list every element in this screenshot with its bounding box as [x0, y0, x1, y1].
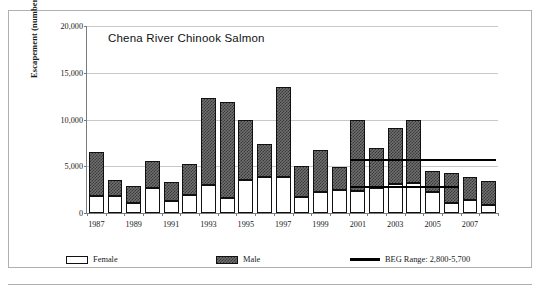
x-tick-mark [180, 213, 181, 216]
bar-segment-female [182, 195, 197, 213]
bar-segment-female [481, 205, 496, 213]
bar-segment-female [463, 200, 478, 213]
bar-segment-male [126, 186, 141, 203]
gridline [87, 73, 498, 74]
bar-segment-female [164, 201, 179, 213]
bar-segment-male [481, 181, 496, 204]
bar-1995 [238, 120, 253, 213]
x-tick-label-1997: 1997 [275, 220, 291, 229]
bar-segment-male [332, 167, 347, 189]
x-tick-mark [349, 213, 350, 216]
bar-segment-male [406, 120, 421, 184]
bar-segment-male [89, 152, 104, 196]
x-tick-mark [124, 213, 125, 216]
x-tick-label-1991: 1991 [163, 220, 179, 229]
x-tick-mark [498, 213, 499, 216]
male-pattern-swatch [216, 256, 238, 264]
bar-2008 [481, 181, 496, 213]
bar-segment-female [332, 190, 347, 213]
x-tick-mark [106, 213, 107, 216]
bar-segment-female [369, 188, 384, 213]
x-tick-label-1987: 1987 [88, 220, 104, 229]
legend-item-beg-range: BEG Range: 2,800-5,700 [350, 255, 470, 264]
bar-1990 [145, 161, 160, 213]
beg-upper-line [350, 159, 496, 161]
y-tick-label: 10,000 [60, 115, 83, 124]
bar-segment-female [444, 203, 459, 213]
bar-1991 [164, 182, 179, 213]
bar-segment-female [145, 188, 160, 213]
x-tick-mark [236, 213, 237, 216]
bar-2002 [369, 148, 384, 213]
x-tick-label-2003: 2003 [387, 220, 403, 229]
bar-segment-male [182, 164, 197, 195]
beg-line-swatch [350, 258, 380, 261]
bar-segment-male [313, 150, 328, 191]
x-tick-label-1993: 1993 [200, 220, 216, 229]
x-tick-mark [461, 213, 462, 216]
female-pattern-swatch [66, 256, 88, 264]
x-tick-mark [479, 213, 480, 216]
bar-segment-male [145, 161, 160, 188]
legend-label-beg-range: BEG Range: 2,800-5,700 [385, 255, 470, 264]
gridline [87, 120, 498, 121]
legend-item-male: Male [216, 255, 260, 264]
x-tick-mark [274, 213, 275, 216]
bar-2003 [388, 128, 403, 213]
bar-segment-male [238, 120, 253, 180]
bar-segment-female [201, 185, 216, 213]
bar-1997 [276, 87, 291, 213]
x-tick-label-1999: 1999 [312, 220, 328, 229]
bar-segment-female [257, 177, 272, 213]
caption-divider-rule [8, 284, 532, 285]
bar-segment-male [164, 182, 179, 201]
bar-segment-male [463, 177, 478, 200]
bar-1998 [294, 166, 309, 213]
bar-segment-female [294, 197, 309, 213]
legend-label-female: Female [93, 255, 118, 264]
x-tick-mark [442, 213, 443, 216]
gridline [87, 26, 498, 27]
x-tick-mark [87, 213, 88, 216]
y-axis-title: Escapement (number of fish [29, 0, 39, 78]
bar-segment-male [276, 87, 291, 178]
bar-segment-female [388, 184, 403, 213]
bar-2001 [350, 120, 365, 214]
bar-1992 [182, 164, 197, 213]
bar-segment-female [126, 203, 141, 213]
bar-segment-male [425, 171, 440, 192]
y-tick-label: 0 [79, 209, 83, 218]
chart-legend: Female Male BEG Range: 2,800-5,700 [20, 255, 520, 271]
bar-segment-female [350, 191, 365, 213]
legend-item-female: Female [66, 255, 118, 264]
x-tick-label-2007: 2007 [462, 220, 478, 229]
beg-lower-line [350, 186, 458, 188]
y-tick-mark [84, 73, 87, 74]
x-tick-label-2001: 2001 [350, 220, 366, 229]
bar-1988 [108, 180, 123, 213]
x-tick-mark [218, 213, 219, 216]
bar-segment-female [238, 180, 253, 213]
bar-segment-male [388, 128, 403, 184]
bar-segment-male [350, 120, 365, 191]
legend-label-male: Male [243, 255, 260, 264]
x-tick-label-2005: 2005 [424, 220, 440, 229]
bar-segment-female [313, 192, 328, 214]
y-tick-mark [84, 26, 87, 27]
bar-segment-female [108, 196, 123, 213]
bar-segment-female [425, 192, 440, 214]
bar-1989 [126, 186, 141, 213]
bar-segment-male [257, 144, 272, 177]
bar-segment-male [369, 148, 384, 188]
bar-segment-male [220, 102, 235, 198]
x-tick-mark [293, 213, 294, 216]
x-tick-mark [367, 213, 368, 216]
y-tick-mark [84, 120, 87, 121]
bar-1993 [201, 98, 216, 213]
bar-segment-female [276, 177, 291, 213]
y-tick-label: 15,000 [60, 68, 83, 77]
bar-2006 [444, 173, 459, 213]
x-tick-mark [423, 213, 424, 216]
bar-segment-female [220, 198, 235, 213]
x-tick-mark [162, 213, 163, 216]
